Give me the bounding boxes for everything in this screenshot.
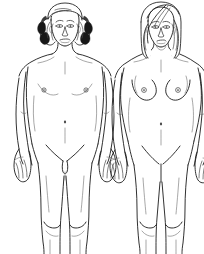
female-right-nipple-dot	[177, 89, 179, 91]
female-navel	[160, 123, 162, 126]
anatomical-illustration	[0, 0, 204, 254]
female-right-pupil	[166, 26, 168, 28]
two-figure-line-drawing	[0, 0, 204, 254]
male-hair-left-curl-lower	[40, 32, 50, 44]
male-right-pupil	[70, 25, 72, 27]
male-hair-right-curl-lower	[81, 32, 91, 44]
female-left-nipple-dot	[143, 89, 145, 91]
male-right-nipple-dot	[85, 89, 87, 91]
female-left-pupil	[155, 26, 157, 28]
male-left-nipple-dot	[43, 89, 45, 91]
male-left-pupil	[59, 25, 61, 27]
male-navel	[64, 121, 66, 124]
